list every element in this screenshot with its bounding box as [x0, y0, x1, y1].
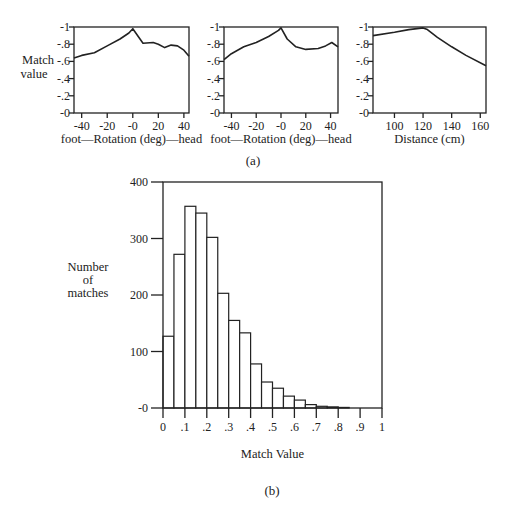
y-tick-label: -.8 — [207, 37, 220, 51]
series-line — [74, 29, 189, 58]
histogram-bar — [251, 364, 262, 408]
x-tick-label: 120 — [414, 119, 432, 133]
x-tick-label: -20 — [248, 119, 264, 133]
x-tick-label: -20 — [99, 119, 115, 133]
y-tick-label: -.2 — [356, 89, 369, 103]
x-tick-label: -0 — [276, 119, 286, 133]
y-tick-label: -.2 — [57, 89, 70, 103]
chart-rotation-1: -0-.2-.4-.6-.8-1-40-20-02040foot—Rotatio… — [20, 20, 202, 146]
x-tick-label: 40 — [178, 119, 190, 133]
x-tick-label: .7 — [312, 420, 321, 434]
panel-b: -01002003004000.1.2.3.4.5.6.7.8.91Match … — [68, 175, 385, 461]
x-tick-label: 20 — [152, 119, 164, 133]
x-tick-label: .2 — [202, 420, 211, 434]
y-axis-label: of — [83, 273, 94, 287]
y-tick-label: 400 — [130, 175, 148, 189]
y-tick-label: -0 — [359, 106, 369, 120]
y-tick-label: -1 — [60, 20, 70, 34]
y-axis-label: Number — [68, 260, 110, 274]
chart-distance: -0-.2-.4-.6-.8-1100120140160Distance (cm… — [356, 20, 489, 146]
x-tick-label: 100 — [385, 119, 403, 133]
y-tick-label: -0 — [210, 106, 220, 120]
x-tick-label: 140 — [443, 119, 461, 133]
y-tick-label: -.6 — [207, 54, 220, 68]
panel-a: -0-.2-.4-.6-.8-1-40-20-02040foot—Rotatio… — [20, 20, 489, 146]
series-line — [224, 28, 338, 60]
y-tick-label: -.8 — [57, 37, 70, 51]
x-tick-label: 0 — [160, 420, 166, 434]
y-tick-label: -0 — [138, 401, 148, 415]
y-axis-label: Match — [22, 53, 55, 67]
x-tick-label: 20 — [300, 119, 312, 133]
y-axis-label: matches — [68, 286, 109, 300]
x-axis-label: Distance (cm) — [394, 132, 464, 146]
plot-frame — [74, 27, 189, 113]
y-tick-label: -.4 — [207, 72, 220, 86]
panel-a-label: (a) — [246, 153, 260, 168]
x-tick-label: .1 — [180, 420, 189, 434]
histogram-bar — [185, 206, 196, 408]
x-tick-label: .4 — [246, 420, 255, 434]
histogram-bar — [163, 336, 174, 408]
x-tick-label: -40 — [74, 119, 90, 133]
x-tick-label: -40 — [223, 119, 239, 133]
x-axis-label: foot—Rotation (deg)—head — [210, 132, 352, 146]
x-tick-label: 40 — [325, 119, 337, 133]
histogram-bar — [174, 254, 185, 408]
y-tick-label: -1 — [359, 20, 369, 34]
y-tick-label: 100 — [130, 345, 148, 359]
histogram-bar — [273, 388, 284, 408]
y-tick-label: 300 — [130, 232, 148, 246]
x-tick-label: .5 — [268, 420, 277, 434]
x-tick-label: 160 — [471, 119, 489, 133]
histogram-bar — [229, 320, 240, 408]
y-tick-label: 200 — [130, 288, 148, 302]
y-tick-label: -1 — [210, 20, 220, 34]
plot-frame — [373, 27, 486, 113]
x-axis-label: foot—Rotation (deg)—head — [61, 132, 203, 146]
y-tick-label: -.4 — [356, 72, 369, 86]
y-tick-label: -.4 — [57, 72, 70, 86]
x-axis-label: Match Value — [241, 447, 305, 461]
y-tick-label: -.6 — [356, 54, 369, 68]
plot-frame — [224, 27, 338, 113]
x-tick-label: .9 — [356, 420, 365, 434]
y-tick-label: -.6 — [57, 54, 70, 68]
x-tick-label: .8 — [334, 420, 343, 434]
x-tick-label: -0 — [128, 119, 138, 133]
histogram-bar — [262, 382, 273, 408]
histogram-bar — [207, 237, 218, 408]
y-tick-label: -.8 — [356, 37, 369, 51]
series-line — [373, 28, 486, 66]
x-tick-label: 1 — [379, 420, 385, 434]
x-tick-label: .6 — [290, 420, 299, 434]
y-tick-label: -.2 — [207, 89, 220, 103]
histogram-bar — [294, 400, 305, 408]
figure: -0-.2-.4-.6-.8-1-40-20-02040foot—Rotatio… — [0, 0, 505, 510]
histogram-bar — [240, 333, 251, 408]
y-tick-label: -0 — [60, 106, 70, 120]
x-tick-label: .3 — [224, 420, 233, 434]
chart-histogram: -01002003004000.1.2.3.4.5.6.7.8.91Match … — [68, 175, 385, 461]
histogram-bar — [196, 213, 207, 408]
histogram-bar — [218, 293, 229, 408]
panel-b-label: (b) — [264, 483, 279, 498]
histogram-bar — [283, 396, 294, 408]
chart-rotation-2: -0-.2-.4-.6-.8-1-40-20-02040foot—Rotatio… — [207, 20, 352, 146]
y-axis-label: value — [20, 67, 48, 81]
